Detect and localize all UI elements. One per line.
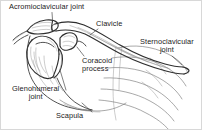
label-acromioclavicular-joint: Acromioclavicular joint — [9, 3, 84, 11]
label-sternoclavicular-joint: Sternoclavicular joint — [140, 38, 194, 55]
label-coracoid-process: Coracoid process — [82, 57, 112, 74]
label-sternoclavicular-joint-line2: joint — [140, 46, 194, 54]
label-scapula: Scapula — [56, 112, 83, 120]
label-coracoid-process-line2: process — [82, 65, 112, 73]
anatomy-figure: .ink { fill: none; stroke: #3f3f3f; stro… — [0, 0, 202, 130]
label-clavicle: Clavicle — [96, 20, 122, 28]
label-glenohumeral-joint-line2: joint — [12, 93, 59, 101]
label-glenohumeral-joint: Glenohumeral joint — [12, 85, 59, 102]
leader-acromioclavicular — [52, 13, 53, 20]
